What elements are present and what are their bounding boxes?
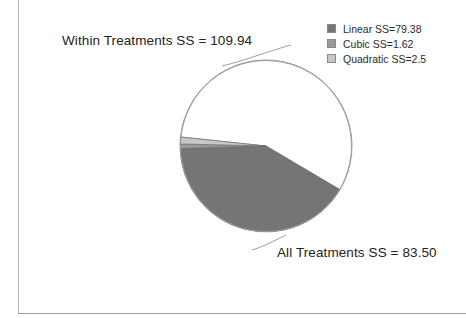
legend-label-linear: Linear SS=79.38	[343, 23, 422, 35]
legend-label-cubic: Cubic SS=1.62	[343, 38, 413, 50]
pie-chart-svg	[180, 60, 352, 232]
all-treatments-leader-line	[252, 234, 288, 252]
legend-swatch-linear	[327, 24, 336, 33]
frame-left-rule	[18, 0, 19, 314]
chart-legend: Linear SS=79.38 Cubic SS=1.62 Quadratic …	[327, 22, 426, 65]
legend-item-linear[interactable]: Linear SS=79.38	[327, 22, 426, 35]
legend-label-quadratic: Quadratic SS=2.5	[343, 53, 426, 65]
frame-bottom-rule	[18, 313, 466, 314]
legend-item-quadratic[interactable]: Quadratic SS=2.5	[327, 52, 426, 65]
legend-swatch-cubic	[327, 39, 336, 48]
legend-swatch-quadratic	[327, 54, 336, 63]
within-treatments-leader-line	[222, 42, 292, 68]
figure-canvas: Within Treatments SS = 109.94 All Treatm…	[0, 0, 466, 318]
legend-item-cubic[interactable]: Cubic SS=1.62	[327, 37, 426, 50]
all-treatments-label: All Treatments SS = 83.50	[277, 245, 437, 260]
pie-chart	[180, 60, 352, 232]
